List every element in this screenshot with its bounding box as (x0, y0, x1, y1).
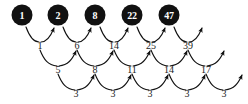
arc-row2-down-2 (95, 74, 112, 90)
second-difference-2: 8 (93, 64, 98, 75)
arc-row3-up-5 (225, 75, 242, 90)
second-difference-5: 17 (201, 64, 211, 75)
third-difference-2: 3 (111, 88, 116, 99)
arc-group-row2-up (59, 51, 224, 66)
arc-row1-up-1 (41, 28, 54, 42)
arc-group-row3-up (77, 75, 242, 90)
arc-row3-up-1 (77, 75, 94, 90)
first-difference-2: 6 (75, 40, 80, 51)
second-difference-4: 14 (164, 64, 174, 75)
second-difference-3: 11 (127, 64, 137, 75)
first-difference-3: 14 (109, 40, 119, 51)
sequence-node-4: 22 (122, 5, 143, 26)
arc-row2-up-2 (96, 51, 113, 66)
arc-row3-up-2 (114, 75, 131, 90)
arc-row1-down-2 (77, 50, 94, 66)
arc-row2-down-1 (58, 74, 75, 90)
difference-table-figure: 1 2 8 22 47 1 6 14 25 39 5 8 11 14 17 3 … (0, 0, 248, 104)
arc-row1-down-1 (40, 50, 57, 66)
third-difference-5: 3 (222, 88, 227, 99)
sequence-node-2: 2 (48, 5, 69, 26)
second-difference-1: 5 (56, 64, 61, 75)
arc-row3-up-3 (151, 75, 168, 90)
arc-row2-down-5 (206, 74, 223, 90)
arc-group-row0-down (26, 27, 187, 42)
arc-row2-down-4 (169, 74, 186, 90)
first-difference-5: 39 (183, 40, 193, 51)
arc-row2-down-3 (132, 74, 149, 90)
first-difference-1: 1 (38, 40, 43, 51)
third-difference-4: 3 (185, 88, 190, 99)
sequence-node-1: 1 (12, 5, 33, 26)
sequence-node-3: 8 (85, 5, 106, 26)
arc-group-row2-down (58, 74, 223, 90)
third-difference-1: 3 (74, 88, 79, 99)
first-difference-4: 25 (146, 40, 156, 51)
arc-row3-up-4 (188, 75, 205, 90)
sequence-node-5: 47 (159, 5, 180, 26)
arc-row1-up-2 (78, 28, 91, 42)
arc-group-row1-down (40, 50, 205, 66)
third-difference-3: 3 (148, 88, 153, 99)
arc-row2-up-1 (59, 51, 76, 66)
